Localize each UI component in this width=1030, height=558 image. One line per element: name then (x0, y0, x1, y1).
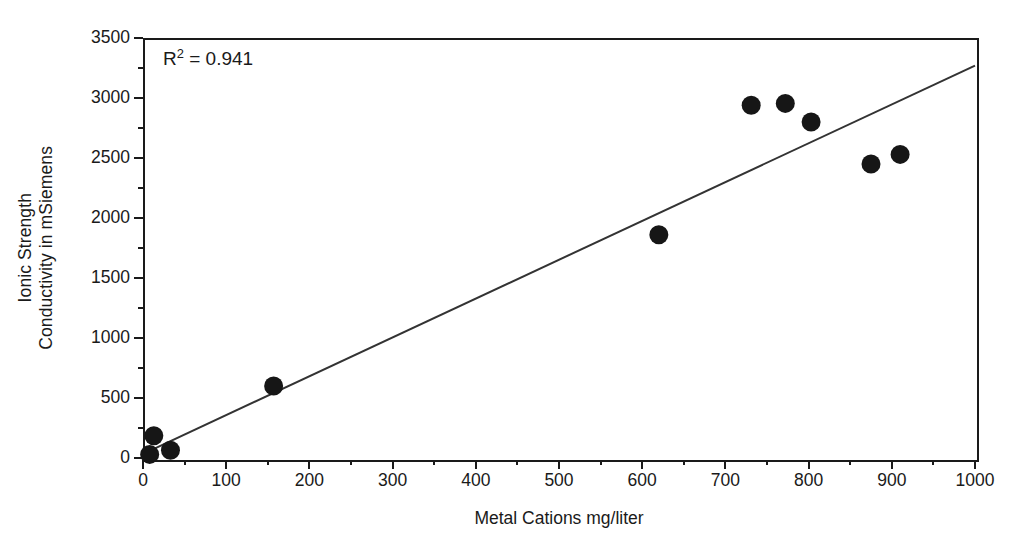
x-tick-mark-minor (184, 460, 186, 465)
y-tick-label: 3500 (68, 29, 130, 47)
x-tick-mark (974, 460, 976, 469)
data-point (742, 96, 761, 115)
x-tick-mark (891, 460, 893, 469)
x-tick-mark-minor (932, 460, 934, 465)
y-tick-mark (134, 217, 143, 219)
x-tick-mark (558, 460, 560, 469)
y-axis-title-line-2: Conductivity in mSiemens (36, 146, 58, 350)
y-tick-label: 2500 (68, 149, 130, 167)
y-tick-mark (134, 157, 143, 159)
y-tick-label: 1500 (68, 269, 130, 287)
y-tick-mark (134, 277, 143, 279)
x-tick-mark (142, 460, 144, 469)
x-tick-mark (641, 460, 643, 469)
data-point (161, 441, 180, 460)
x-tick-label: 100 (186, 472, 266, 490)
y-tick-label: 1000 (68, 329, 130, 347)
x-axis-title: Metal Cations mg/liter (143, 508, 975, 529)
x-tick-mark (475, 460, 477, 469)
x-tick-label: 200 (269, 472, 349, 490)
x-tick-mark-minor (267, 460, 269, 465)
y-axis-title-line-1: Ionic Strength (15, 193, 37, 302)
data-point (862, 155, 881, 174)
x-tick-label: 400 (436, 472, 516, 490)
r-squared-annotation: R2 = 0.941 (163, 48, 253, 70)
x-tick-mark-minor (600, 460, 602, 465)
x-tick-mark-minor (766, 460, 768, 465)
y-tick-label: 3000 (68, 89, 130, 107)
data-point (891, 145, 910, 164)
scatter-chart-figure: Ionic Strength Conductivity in mSiemens … (0, 0, 1030, 558)
y-tick-label: 2000 (68, 209, 130, 227)
y-tick-mark (134, 397, 143, 399)
r-squared-symbol: R (163, 48, 177, 69)
data-point (776, 94, 795, 113)
x-tick-label: 500 (519, 472, 599, 490)
x-tick-label: 900 (852, 472, 932, 490)
x-tick-label: 0 (103, 472, 183, 490)
x-tick-mark-minor (683, 460, 685, 465)
plot-data-layer (143, 38, 975, 458)
data-point (264, 377, 283, 396)
x-tick-label: 300 (353, 472, 433, 490)
r-squared-value: = 0.941 (184, 48, 253, 69)
y-tick-label: 500 (68, 389, 130, 407)
x-tick-label: 1000 (935, 472, 1015, 490)
y-tick-label: 0 (68, 449, 130, 467)
x-tick-mark-minor (433, 460, 435, 465)
x-tick-mark-minor (516, 460, 518, 465)
data-point (144, 426, 163, 445)
x-tick-mark-minor (350, 460, 352, 465)
y-tick-mark (134, 337, 143, 339)
x-tick-mark (308, 460, 310, 469)
y-axis-tick-labels: 0500100015002000250030003500 (60, 0, 130, 500)
data-point (802, 113, 821, 132)
y-tick-mark (134, 37, 143, 39)
x-tick-mark (225, 460, 227, 469)
x-tick-label: 800 (769, 472, 849, 490)
x-tick-mark-minor (849, 460, 851, 465)
x-tick-label: 600 (602, 472, 682, 490)
x-tick-mark (808, 460, 810, 469)
x-tick-label: 700 (685, 472, 765, 490)
x-tick-mark (724, 460, 726, 469)
x-tick-mark (392, 460, 394, 469)
y-tick-mark (134, 97, 143, 99)
data-point (649, 225, 668, 244)
r-squared-exponent: 2 (177, 46, 184, 61)
